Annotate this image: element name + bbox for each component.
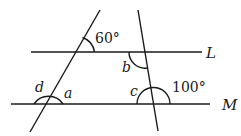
label-b: b: [122, 59, 131, 75]
label-a: a: [64, 85, 72, 101]
label-L: L: [205, 44, 216, 62]
left-transversal: [30, 10, 100, 132]
label-c: c: [130, 83, 138, 99]
angle-arc-60: [83, 38, 95, 53]
geometry-diagram: 60° L b d a c 100° M: [0, 0, 241, 136]
label-M: M: [221, 96, 238, 114]
label-100: 100°: [172, 79, 206, 95]
right-transversal: [138, 10, 158, 131]
label-d: d: [35, 79, 44, 95]
label-60: 60°: [95, 30, 120, 46]
